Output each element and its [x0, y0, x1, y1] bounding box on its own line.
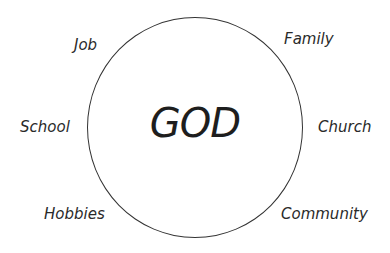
label-job: Job — [74, 36, 97, 54]
label-school: School — [20, 118, 70, 136]
center-label-god: GOD — [140, 100, 250, 146]
label-community: Community — [281, 205, 368, 223]
label-hobbies: Hobbies — [44, 205, 105, 223]
label-church: Church — [318, 118, 371, 136]
label-family: Family — [284, 30, 334, 48]
